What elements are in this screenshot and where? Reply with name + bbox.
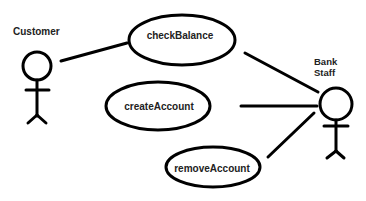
use-case-removeaccount-label: removeAccount <box>174 163 250 174</box>
bank-staff-left-leg <box>327 151 336 158</box>
customer-right-leg <box>37 115 46 123</box>
bank-staff-actor-figure <box>320 88 352 158</box>
customer-actor-label: Customer <box>13 26 60 37</box>
bank-staff-actor-label: Bank Staff <box>314 56 337 78</box>
bank-staff-label-line2: Staff <box>314 67 337 78</box>
association-bankstaff-removeaccount <box>268 113 314 157</box>
customer-left-leg <box>28 115 37 123</box>
use-case-createaccount-label: createAccount <box>124 101 193 112</box>
bank-staff-label-line1: Bank <box>314 56 337 67</box>
association-bankstaff-checkbalance <box>245 53 318 92</box>
association-customer-checkbalance <box>61 43 127 61</box>
use-case-checkbalance-label: checkBalance <box>147 30 214 41</box>
customer-actor-figure <box>23 52 51 123</box>
bank-staff-head <box>320 88 352 120</box>
bank-staff-right-leg <box>336 151 344 158</box>
customer-head <box>23 52 51 80</box>
